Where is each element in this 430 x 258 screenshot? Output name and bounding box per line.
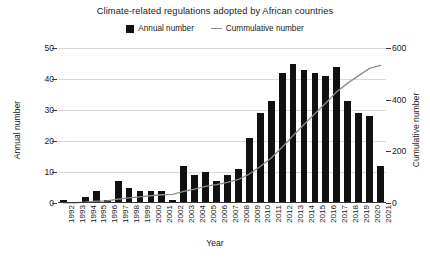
- x-axis-tick-label: 2005: [209, 205, 218, 223]
- y-axis-left-tick-mark: [52, 110, 57, 111]
- y-axis-right-tick-label: 600: [392, 43, 426, 53]
- x-axis-tick-label: 1994: [89, 205, 98, 223]
- legend-item-annual-number: Annual number: [126, 24, 194, 33]
- x-axis-tick-label: 2003: [187, 205, 196, 223]
- x-axis-tick-label: 1996: [110, 205, 119, 223]
- x-axis-tick-label: 1993: [78, 205, 87, 223]
- x-axis-tick-label: 2004: [198, 205, 207, 223]
- y-axis-right-tick-mark: [386, 100, 391, 101]
- x-axis-tick-label: 2020: [373, 205, 382, 223]
- chart-figure: Climate-related regulations adopted by A…: [0, 0, 430, 258]
- y-axis-right-tick-label: 0: [392, 198, 426, 208]
- y-axis-right-tick-mark: [386, 151, 391, 152]
- y-axis-right-tick-mark: [386, 203, 391, 204]
- y-axis-left-tick-label: 50: [14, 43, 54, 53]
- x-axis-tick-label: 2018: [351, 205, 360, 223]
- x-axis-tick-labels: 1992199319941995199619971998199920002001…: [58, 205, 386, 241]
- x-axis-tick-label: 2000: [154, 205, 163, 223]
- chart-title: Climate-related regulations adopted by A…: [0, 6, 430, 16]
- y-axis-left-tick-mark: [52, 203, 57, 204]
- y-axis-right-label: Cumulative number: [411, 80, 421, 180]
- y-axis-left-tick-mark: [52, 141, 57, 142]
- legend-label-annual-number: Annual number: [138, 24, 194, 33]
- chart-legend: Annual number Cummulative number: [0, 24, 430, 33]
- y-axis-left-label: Annual number: [12, 80, 22, 180]
- y-axis-left-tick-mark: [52, 79, 57, 80]
- x-axis-tick-label: 2017: [340, 205, 349, 223]
- x-axis-tick-label: 2007: [231, 205, 240, 223]
- x-axis-tick-label: 2014: [307, 205, 316, 223]
- x-axis-tick-label: 2008: [242, 205, 251, 223]
- line-series-cummulative-number: [58, 48, 386, 203]
- legend-label-cummulative-number: Cummulative number: [226, 24, 304, 33]
- x-axis-tick-label: 2015: [318, 205, 327, 223]
- x-axis-tick-label: 2011: [274, 205, 283, 222]
- y-axis-left-tick-label: 0: [14, 198, 54, 208]
- x-axis-tick-label: 1992: [67, 205, 76, 223]
- x-axis-tick-label: 1999: [143, 205, 152, 223]
- bar-swatch-icon: [126, 25, 134, 33]
- x-axis-tick-label: 1997: [121, 205, 130, 223]
- legend-item-cummulative-number: Cummulative number: [211, 24, 304, 33]
- y-axis-right-tick-mark: [386, 48, 391, 49]
- x-axis-tick-label: 2002: [176, 205, 185, 223]
- x-axis-tick-label: 2010: [263, 205, 272, 223]
- y-axis-left-tick-mark: [52, 172, 57, 173]
- line-swatch-icon: [211, 28, 222, 29]
- x-axis-tick-label: 2016: [329, 205, 338, 223]
- x-axis-tick-label: 1995: [99, 205, 108, 223]
- y-axis-left-tick-mark: [52, 48, 57, 49]
- x-axis-tick-label: 2009: [253, 205, 262, 223]
- x-axis-tick-label: 2001: [165, 205, 174, 223]
- x-axis-tick-label: 2013: [296, 205, 305, 223]
- x-axis-tick-label: 2006: [220, 205, 229, 223]
- plot-area: [58, 48, 386, 203]
- x-axis-line: [58, 202, 386, 203]
- x-axis-tick-label: 2019: [362, 205, 371, 223]
- x-axis-tick-label: 2012: [285, 205, 294, 223]
- x-axis-label: Year: [0, 238, 430, 248]
- x-axis-tick-label: 1998: [132, 205, 141, 223]
- x-axis-tick-label: 2021: [384, 205, 393, 223]
